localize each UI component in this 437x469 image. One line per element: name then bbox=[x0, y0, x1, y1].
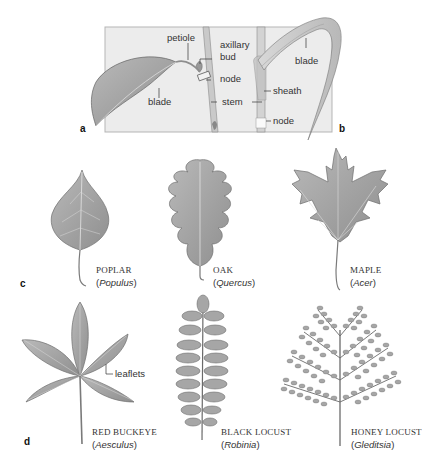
honey-locust-leaf-illustration bbox=[281, 306, 401, 446]
panel-letter-a: a bbox=[80, 124, 86, 134]
honey-locust-genus: (Gleditsia) bbox=[351, 440, 394, 450]
panel-letter-c: c bbox=[20, 279, 26, 289]
panel-letter-d: d bbox=[24, 437, 30, 447]
red-buckeye-genus: (Aesculus) bbox=[92, 440, 137, 450]
oak-common-name: OAK bbox=[213, 266, 233, 275]
maple-genus-name: Acer bbox=[353, 277, 373, 288]
label-node-b: node bbox=[273, 116, 294, 126]
label-leaflets: leaflets bbox=[115, 369, 145, 379]
label-blade-a: blade bbox=[148, 97, 171, 107]
label-node-a: node bbox=[220, 74, 241, 84]
honey-locust-common-name: HONEY LOCUST bbox=[351, 428, 422, 437]
oak-genus-name: Quercus bbox=[216, 277, 252, 288]
poplar-common-name: POPLAR bbox=[96, 266, 132, 275]
label-petiole: petiole bbox=[167, 33, 195, 43]
red-buckeye-common-name: RED BUCKEYE bbox=[92, 428, 157, 437]
poplar-genus: (Populus) bbox=[96, 278, 137, 288]
poplar-genus-name: Populus bbox=[99, 277, 133, 288]
black-locust-leaf-illustration bbox=[176, 295, 228, 440]
panel-letter-b: b bbox=[339, 124, 345, 134]
red-buckeye-genus-name: Aesculus bbox=[95, 439, 134, 450]
oak-leaf-illustration bbox=[169, 160, 232, 280]
black-locust-genus-name: Robinia bbox=[224, 439, 256, 450]
label-blade-b: blade bbox=[295, 56, 318, 66]
label-stem: stem bbox=[222, 97, 243, 107]
maple-common-name: MAPLE bbox=[350, 266, 382, 275]
oak-genus: (Quercus) bbox=[213, 278, 255, 288]
leaf-diagram-illustration bbox=[0, 0, 437, 469]
honey-locust-genus-name: Gleditsia bbox=[354, 439, 391, 450]
label-axillary: axillary bbox=[220, 40, 250, 50]
label-bud: bud bbox=[220, 52, 236, 62]
black-locust-genus: (Robinia) bbox=[221, 440, 260, 450]
black-locust-common-name: BLACK LOCUST bbox=[221, 428, 291, 437]
label-sheath: sheath bbox=[273, 86, 302, 96]
maple-genus: (Acer) bbox=[350, 278, 376, 288]
